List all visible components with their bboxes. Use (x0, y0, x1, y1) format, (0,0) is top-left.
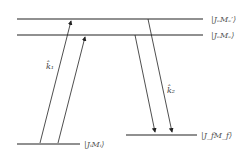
level-initial-label: |JᵢMᵢ⟩ (84, 140, 104, 149)
level-excited-label: |JₑMₑ⟩ (211, 31, 234, 40)
emission-arrow-1 (135, 35, 155, 132)
energy-level-diagram: |JₑMₑ′⟩ |JₑMₑ⟩ |JᵢMᵢ⟩ |J_fM_f⟩ k̂₁ k̂₂ (0, 0, 251, 157)
absorption-arrow-2 (58, 37, 85, 143)
wavevector-k1-label: k̂₁ (46, 60, 54, 71)
absorption-arrow-1 (40, 21, 71, 143)
wavevector-k2-label: k̂₂ (167, 84, 175, 95)
level-final-label: |J_fM_f⟩ (201, 131, 232, 140)
level-excited-prime-label: |JₑMₑ′⟩ (211, 15, 236, 24)
